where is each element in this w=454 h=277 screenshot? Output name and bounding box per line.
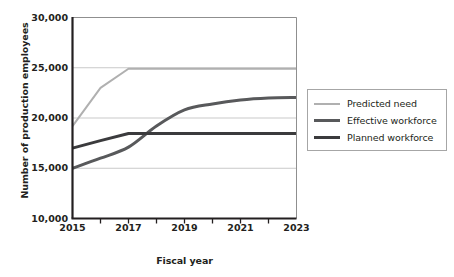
y-tick-label: 25,000 (8, 62, 68, 73)
y-tick-label: 20,000 (8, 112, 68, 123)
x-tick-label: 2019 (160, 222, 210, 233)
chart-legend: Predicted needEffective workforcePlanned… (307, 89, 447, 151)
x-tick-label: 2021 (216, 222, 266, 233)
y-gridlines (73, 18, 297, 169)
legend-label: Effective workforce (347, 115, 437, 126)
series-curves (73, 69, 297, 168)
legend-item[interactable]: Planned workforce (308, 129, 446, 146)
series-line (73, 134, 297, 149)
x-tick-label: 2015 (48, 222, 98, 233)
legend-label: Planned workforce (347, 132, 433, 143)
y-tick-label: 15,000 (8, 162, 68, 173)
legend-swatch-icon (314, 103, 340, 105)
x-tick-label: 2023 (272, 222, 322, 233)
x-tick-label: 2017 (104, 222, 154, 233)
chart-figure: Number of production employees Fiscal ye… (0, 0, 454, 277)
legend-swatch-icon (314, 119, 340, 122)
x-axis-title: Fiscal year (72, 255, 297, 266)
legend-item[interactable]: Effective workforce (308, 112, 446, 129)
legend-item[interactable]: Predicted need (308, 95, 446, 112)
y-tick-label: 30,000 (8, 12, 68, 23)
legend-swatch-icon (314, 136, 340, 139)
legend-label: Predicted need (347, 98, 417, 109)
